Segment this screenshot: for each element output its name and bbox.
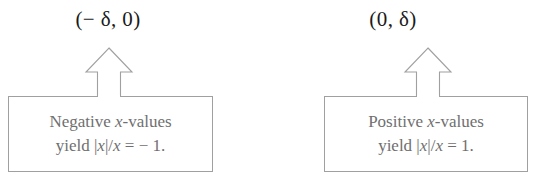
line1-variable: x [427,112,435,131]
line1-prefix: Positive [368,112,427,131]
explanation-line-1: Positive x-values [368,110,484,134]
line2-variable-2: x [435,136,443,155]
explanation-line-2: yield |x|/x = 1. [378,134,474,158]
line2-variable-1: x [97,136,105,155]
explanation-line-1: Negative x-values [49,110,171,134]
line1-prefix: Negative [49,112,115,131]
callout-positive-side: (0, δ) Positive x-values yield |x|/x = 1… [268,0,536,178]
coordinate-label-negative: (− δ, 0) [0,4,242,34]
line2-prefix: yield | [378,136,420,155]
explanation-line-2: yield |x|/x = − 1. [56,134,166,158]
up-arrow-icon-negative [83,46,135,100]
line2-suffix: = 1. [443,136,474,155]
line1-suffix: -values [123,112,172,131]
diagram-canvas: (− δ, 0) Negative x-values yield |x|/x =… [0,0,536,178]
up-arrow-icon-positive [402,46,454,100]
callout-negative-side: (− δ, 0) Negative x-values yield |x|/x =… [0,0,268,178]
line2-prefix: yield | [56,136,98,155]
explanation-box-positive: Positive x-values yield |x|/x = 1. [324,96,528,172]
arrow-shaft-joint-positive [417,95,439,98]
coordinate-label-positive: (0, δ) [259,4,527,34]
explanation-box-negative: Negative x-values yield |x|/x = − 1. [8,96,213,172]
line2-variable-2: x [113,136,121,155]
line2-suffix: = − 1. [121,136,166,155]
arrow-shaft-joint-negative [98,95,120,98]
line1-suffix: -values [435,112,484,131]
line1-variable: x [115,112,123,131]
line2-mid: |/ [105,136,113,155]
